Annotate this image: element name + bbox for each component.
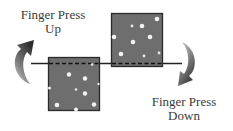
finger-press-down-label: Finger Press Down — [135, 95, 233, 123]
label-down-line1: Finger Press — [135, 95, 233, 109]
right-box — [112, 14, 163, 67]
label-up-line2: Up — [8, 22, 98, 36]
left-box — [48, 58, 100, 112]
label-up-line1: Finger Press — [8, 8, 98, 22]
finger-press-up-label: Finger Press Up — [8, 8, 98, 36]
label-down-line2: Down — [135, 109, 233, 123]
curved-arrow-up-icon — [15, 40, 34, 84]
